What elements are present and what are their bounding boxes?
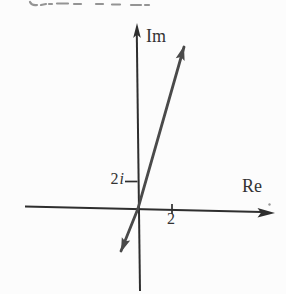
complex-plane-graphic <box>0 0 286 294</box>
re-axis-label: Re <box>242 177 262 195</box>
cropped-text-fragment <box>30 2 149 5</box>
imaginary-tick-label: 2i <box>96 171 124 187</box>
real-tick-label: 2 <box>162 211 180 227</box>
re-axis-line <box>25 207 262 213</box>
print-speck-dot <box>268 203 270 205</box>
imaginary-tick-unit: i <box>120 170 124 187</box>
complex-plane-figure: Im Re 2i 2 <box>0 0 286 294</box>
im-axis-label: Im <box>146 27 166 45</box>
imaginary-tick-value: 2 <box>111 170 119 187</box>
im-axis-line <box>137 34 140 291</box>
